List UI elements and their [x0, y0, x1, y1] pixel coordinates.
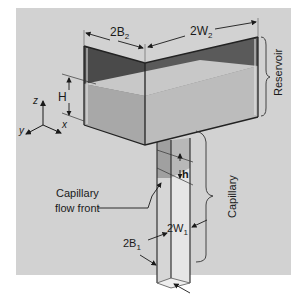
label-flow-front-line2: flow front	[55, 202, 100, 214]
label-2b2: 2B2	[110, 25, 130, 41]
label-2w2: 2W2	[190, 24, 213, 40]
arrow-2w1-right	[192, 220, 207, 227]
reservoir-box	[84, 37, 258, 145]
axis-z-label: z	[32, 95, 38, 106]
arrow-2b1-left	[140, 255, 156, 265]
capillary-tube	[157, 138, 190, 288]
capillary-brace	[196, 131, 213, 262]
label-capillary: Capillary	[226, 175, 238, 218]
label-2b1: 2B1	[123, 237, 141, 252]
label-h-capillary: h	[182, 168, 189, 180]
label-reservoir: Reservoir	[272, 49, 284, 96]
flow-front-leader	[98, 183, 161, 208]
axis-y-label: y	[18, 125, 25, 136]
coordinate-axes	[26, 101, 61, 134]
axis-x-label: x	[61, 119, 68, 130]
label-flow-front-line1: Capillary	[56, 187, 99, 199]
reservoir-brace	[261, 37, 270, 116]
capillary-reservoir-diagram: 2B2 2W2 Reservoir H z y x h Capillary Ca…	[0, 0, 302, 295]
label-h-upper: H	[58, 90, 67, 104]
